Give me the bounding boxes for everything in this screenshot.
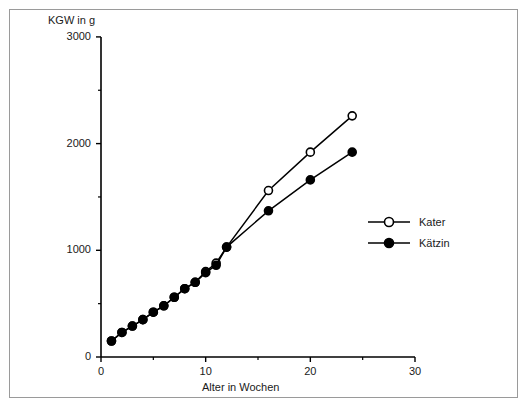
legend-marker-kätzin[interactable] <box>385 239 394 248</box>
series-line-kater <box>111 116 352 341</box>
data-point-kater[interactable] <box>306 148 314 156</box>
legend-label-kaetzin: Kätzin <box>419 237 450 249</box>
data-point-kätzin[interactable] <box>170 293 178 301</box>
chart-axes <box>96 37 415 362</box>
data-point-kätzin[interactable] <box>202 269 210 277</box>
data-point-kätzin[interactable] <box>181 285 189 293</box>
data-point-kätzin[interactable] <box>149 308 157 316</box>
legend-label-kater: Kater <box>419 216 445 228</box>
data-point-kätzin[interactable] <box>107 337 115 345</box>
data-point-kätzin[interactable] <box>223 243 231 251</box>
data-point-kätzin[interactable] <box>160 302 168 310</box>
data-point-kätzin[interactable] <box>118 328 126 336</box>
data-point-kätzin[interactable] <box>191 278 199 286</box>
chart-legend <box>368 218 410 248</box>
data-point-kater[interactable] <box>348 112 356 120</box>
line-chart-plot <box>0 0 530 409</box>
series-line-kätzin <box>111 152 352 341</box>
data-point-kätzin[interactable] <box>139 316 147 324</box>
data-point-kätzin[interactable] <box>264 207 272 215</box>
data-point-kätzin[interactable] <box>348 148 356 156</box>
legend-marker-kater[interactable] <box>385 218 394 227</box>
data-point-kater[interactable] <box>264 187 272 195</box>
data-point-kätzin[interactable] <box>306 176 314 184</box>
data-point-kätzin[interactable] <box>128 322 136 330</box>
chart-series-layer <box>107 112 356 345</box>
data-point-kätzin[interactable] <box>212 261 220 269</box>
